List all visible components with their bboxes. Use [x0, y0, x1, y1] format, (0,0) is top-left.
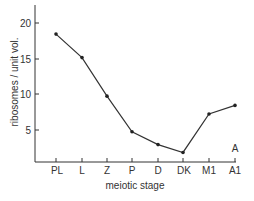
data-point [207, 112, 211, 116]
x-tick-label: Z [104, 165, 110, 176]
x-tick-label: P [129, 165, 136, 176]
data-point [156, 143, 160, 147]
data-point [130, 130, 134, 134]
y-axis-title: ribosomes / unit vol. [9, 38, 20, 127]
line-chart: 20 15 10 5 PL L Z P D DK M1 A1 A meiotic… [0, 0, 254, 201]
data-point [54, 32, 58, 36]
x-tick-label: D [154, 165, 161, 176]
y-tick-label: 20 [20, 18, 32, 29]
y-tick-label: 10 [20, 89, 32, 100]
x-tick-label: M1 [202, 165, 216, 176]
series-line [56, 34, 235, 152]
y-ticks: 20 15 10 5 [20, 18, 39, 136]
y-tick-label: 5 [25, 125, 31, 136]
data-point [105, 94, 109, 98]
x-axis-title: meiotic stage [106, 180, 165, 191]
y-tick-label: 15 [20, 54, 32, 65]
series-markers [54, 32, 237, 154]
x-ticks: PL L Z P D DK M1 A1 [51, 158, 242, 176]
panel-label: A [232, 143, 239, 154]
x-tick-label: DK [177, 165, 191, 176]
x-tick-label: PL [51, 165, 64, 176]
data-point [181, 151, 185, 155]
data-point [80, 56, 84, 60]
data-point [233, 104, 237, 108]
x-tick-label: L [79, 165, 85, 176]
x-tick-label: A1 [229, 165, 242, 176]
